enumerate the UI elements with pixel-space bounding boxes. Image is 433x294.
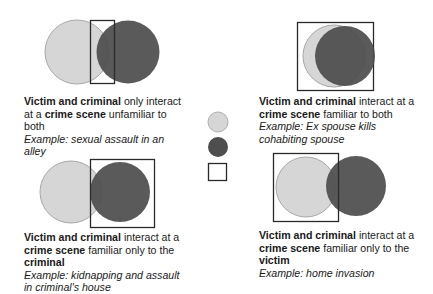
legend-crime-scene-icon	[209, 164, 227, 181]
caption-bold-scene: crime scene	[259, 242, 320, 254]
caption-bottom-right: Victim and criminal interact at a crime …	[259, 229, 419, 279]
caption-example: Example: home invasion	[259, 267, 419, 280]
caption-bold-subject: Victim and criminal	[259, 95, 356, 107]
caption-example: Example: kidnapping and assault in crimi…	[24, 269, 180, 294]
caption-bottom-left: Victim and criminal interact at a crime …	[24, 231, 180, 294]
caption-bold-subject: Victim and criminal	[24, 95, 121, 107]
caption-bold-scene: crime scene	[24, 244, 85, 256]
caption-top-left: Victim and criminal only interact at a c…	[24, 95, 184, 158]
caption-top-right: Victim and criminal interact at a crime …	[259, 95, 419, 145]
caption-bold-subject: Victim and criminal	[24, 231, 121, 243]
caption-example: Example: Ex spouse kills cohabiting spou…	[259, 120, 419, 145]
caption-bold-party: criminal	[24, 256, 65, 268]
caption-example: Example: sexual assault in an alley	[24, 133, 184, 158]
caption-bold-scene: crime scene	[45, 108, 106, 120]
caption-bold-party: victim	[259, 254, 290, 266]
caption-bold-subject: Victim and criminal	[259, 229, 356, 241]
criminal-circle	[315, 26, 375, 86]
panel-bottom-left-diagram	[40, 160, 155, 228]
caption-bold-scene: crime scene	[259, 108, 320, 120]
legend-victim-icon	[208, 112, 228, 132]
legend-criminal-icon	[208, 137, 228, 157]
criminal-circle	[90, 162, 150, 222]
panel-top-right-diagram	[298, 23, 376, 91]
panel-bottom-right-diagram	[274, 154, 387, 222]
criminal-circle	[97, 21, 160, 84]
legend	[208, 112, 228, 181]
criminal-circle	[326, 156, 386, 216]
panel-top-left-diagram	[45, 20, 160, 84]
